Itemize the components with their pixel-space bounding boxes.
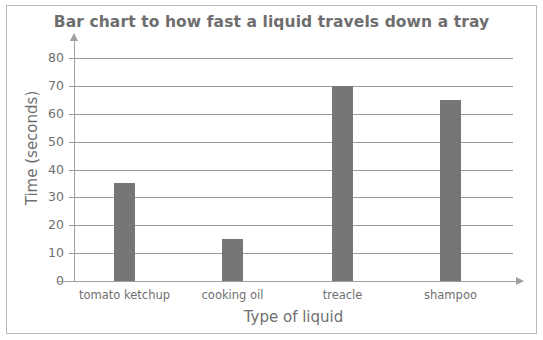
y-axis-tick-label-wrap: 10 [33,247,64,259]
x-axis-title: Type of liquid [74,308,513,326]
y-axis-arrow-icon [70,33,78,41]
bar [440,100,461,281]
gridline [74,58,513,59]
x-axis-category-label: treacle [323,288,363,302]
y-axis-tick-label-wrap: 80 [33,52,64,64]
gridline [74,86,513,87]
x-axis-line [58,281,518,282]
y-axis-tick-label: 10 [36,247,64,260]
x-axis-arrow-icon [516,277,524,285]
bar [332,86,353,281]
plot-area: 01020304050607080 tomato ketchupcooking … [0,0,543,340]
bar [114,183,135,281]
bar-chart-figure: Bar chart to how fast a liquid travels d… [0,0,543,340]
y-axis-tick-label: 80 [36,52,64,65]
bar [222,239,243,281]
x-axis-category-label: cooking oil [202,288,264,302]
x-axis-category-label: tomato ketchup [79,288,170,302]
y-axis-title: Time (seconds) [23,68,41,228]
x-axis-category-label: shampoo [424,288,477,302]
y-axis-line [74,40,75,282]
